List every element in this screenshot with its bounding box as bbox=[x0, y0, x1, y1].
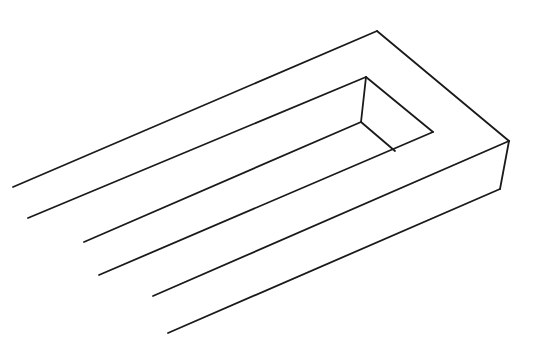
figure-line bbox=[377, 31, 509, 141]
figure-line bbox=[366, 77, 433, 132]
figure-line bbox=[13, 31, 377, 187]
figure-line bbox=[99, 132, 433, 275]
figure-line bbox=[361, 77, 366, 122]
figure-line bbox=[153, 141, 509, 296]
impossible-fork-drawing bbox=[0, 0, 534, 345]
figure-line bbox=[28, 77, 366, 218]
figure-line bbox=[361, 122, 395, 151]
figure-line bbox=[168, 189, 500, 333]
figure-line bbox=[500, 141, 509, 189]
